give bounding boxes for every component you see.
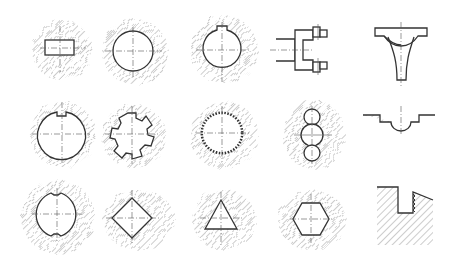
- square-hole-figure: [101, 188, 173, 248]
- thread-groove-figure: [377, 187, 433, 245]
- triangle-hole-figure: [190, 188, 254, 248]
- serrated-hole-figure: [188, 99, 256, 167]
- rect-hole-figure: [30, 18, 90, 78]
- technical-drawing-sheet: [0, 0, 454, 267]
- semicircle-groove-figure: [363, 106, 435, 135]
- round-hole-figure: [100, 17, 166, 83]
- triple-circle-hole-figure: [281, 98, 343, 168]
- keyway-hole-figure: [188, 14, 256, 82]
- hex-hole-figure: [276, 188, 344, 248]
- fork-part-figure: [270, 24, 327, 75]
- double-notch-hole-figure: [19, 178, 93, 252]
- y-bracket-figure: [375, 22, 427, 88]
- notch-hole-figure: [28, 100, 94, 166]
- spline-hole-figure: [100, 102, 164, 166]
